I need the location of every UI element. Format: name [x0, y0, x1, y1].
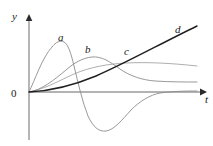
y-axis-arrowhead	[26, 14, 33, 21]
curve-b-path	[29, 57, 197, 92]
curve-label-c: c	[124, 46, 129, 57]
curve-label-a: a	[58, 32, 64, 43]
curve-c-path	[29, 63, 197, 92]
origin-label: 0	[11, 88, 17, 99]
figure-container: y t 0 a b c d	[0, 0, 213, 146]
y-axis-label: y	[12, 11, 17, 22]
curve-a-path	[29, 41, 197, 131]
t-axis-label: t	[205, 94, 208, 105]
curve-label-d: d	[175, 24, 181, 35]
curve-plot	[0, 0, 213, 146]
curve-label-b: b	[85, 44, 91, 55]
